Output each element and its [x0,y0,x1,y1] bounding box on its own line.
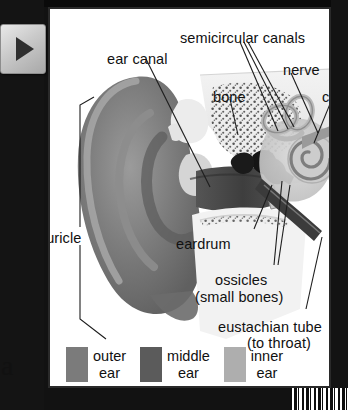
legend: outer ear middle ear inner ear [66,347,283,382]
next-page-button[interactable] [0,24,46,74]
legend-item-outer-ear: outer ear [66,347,126,382]
label-cochlea: cochlea [322,89,331,105]
label-ossicles-subtitle: (small bones) [195,289,283,305]
legend-label-inner-ear-line1: inner [251,348,283,364]
label-semicircular-canals: semicircular canals [180,30,305,46]
legend-swatch-middle-ear [140,347,162,382]
legend-swatch-outer-ear [66,347,88,382]
legend-swatch-inner-ear [224,347,246,382]
legend-item-middle-ear: middle ear [140,347,210,382]
legend-label-inner-ear: inner ear [251,348,283,380]
legend-label-inner-ear-line2: ear [256,365,277,381]
label-ear-canal: ear canal [107,51,168,67]
legend-label-outer-ear: outer ear [93,348,126,380]
figure-page: ear canal semicircular canals nerve bone… [48,7,331,388]
label-eustachian-tube: eustachian tube [218,319,322,335]
label-nerve: nerve [283,62,320,78]
legend-label-outer-ear-line2: ear [99,365,120,381]
auricle-region [78,77,213,321]
label-ossicles: ossicles [215,272,267,288]
play-triangle-right-icon [16,37,34,61]
legend-label-middle-ear-line1: middle [167,348,210,364]
figure-page-inner: ear canal semicircular canals nerve bone… [50,9,329,386]
chrome-top-bar [0,0,348,7]
label-auricle: auricle [48,230,81,246]
label-bone: bone [213,89,246,105]
label-eardrum: eardrum [176,236,231,252]
page-edge-stripes [290,388,348,410]
legend-label-middle-ear-line2: ear [178,365,199,381]
stray-body-text: a [1,352,13,380]
legend-item-inner-ear: inner ear [224,347,283,382]
chrome-right-gutter [331,0,348,410]
legend-label-middle-ear: middle ear [167,348,210,380]
legend-label-outer-ear-line1: outer [93,348,126,364]
